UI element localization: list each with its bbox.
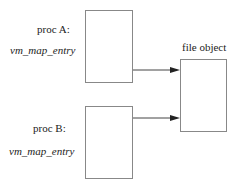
arrow-proc-a-to-file [133, 67, 180, 73]
arrows-layer [0, 0, 241, 187]
arrow-proc-b-to-file [133, 115, 180, 121]
